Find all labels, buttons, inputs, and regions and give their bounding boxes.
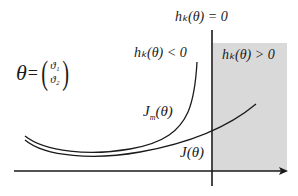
theta-definition: θ = ( ϑ₁ ϑ₂ ) [16,56,71,90]
model-cost-label: Jm(θ) [143,104,173,122]
vector-component-1: ϑ₁ [50,59,59,73]
theta-symbol: θ [16,60,27,86]
diagram-canvas [0,0,298,196]
right-paren: ) [62,56,69,90]
left-paren: ( [41,56,48,90]
feasible-region-label: hₖ(θ) > 0 [222,48,275,62]
vector-component-2: ϑ₂ [50,73,59,87]
boundary-label: hₖ(θ) = 0 [175,10,228,24]
equals-sign: = [28,63,38,84]
infeasible-region-label: hₖ(θ) < 0 [134,46,187,60]
feasible-region-shading [213,43,287,171]
model-cost-symbol: J [143,103,150,119]
true-cost-label: J(θ) [180,145,204,160]
parameter-vector: ϑ₁ ϑ₂ [50,59,59,87]
model-cost-argument: (θ) [155,103,172,119]
